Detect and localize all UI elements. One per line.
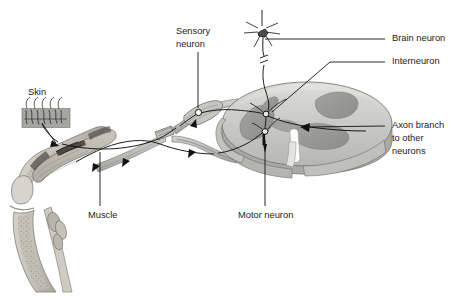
sensory-neuron-soma	[195, 109, 201, 115]
small-bones	[45, 211, 68, 251]
brain-neuron-soma	[258, 29, 268, 37]
label-sensory-neuron-line1: Sensory	[176, 26, 210, 36]
nerve-sheath	[155, 126, 174, 140]
axon-break-marks	[260, 55, 268, 63]
skin-patch	[22, 97, 70, 128]
skin-hairs	[26, 97, 62, 109]
arrow-motor-efferent	[188, 149, 196, 158]
label-muscle: Muscle	[88, 210, 117, 220]
label-sensory-neuron-line2: neuron	[176, 39, 205, 49]
label-axon-branch-line3: neurons	[392, 146, 426, 156]
label-skin: Skin	[28, 87, 46, 97]
label-brain-neuron: Brain neuron	[392, 33, 445, 43]
label-axon-branch-line1: Axon branch	[392, 120, 444, 130]
diagram-canvas: Sensory neuron Brain neuron Interneuron …	[0, 0, 465, 300]
joint-head-upper	[11, 176, 33, 204]
label-axon-branch-line2: to other	[392, 133, 424, 143]
spinal-cord	[216, 82, 392, 178]
reflex-arc-figure: Sensory neuron Brain neuron Interneuron …	[0, 0, 465, 300]
joint-space	[10, 206, 34, 210]
label-motor-neuron: Motor neuron	[238, 210, 293, 220]
motor-neuron-soma	[262, 129, 268, 135]
label-interneuron: Interneuron	[392, 56, 440, 66]
limb	[10, 126, 116, 292]
brain-neuron-axon-upper	[263, 37, 264, 56]
